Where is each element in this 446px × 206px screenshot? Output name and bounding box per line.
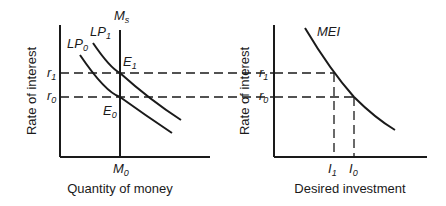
m0-label: M0 — [113, 161, 129, 178]
y-axis-label-left: Rate of interest — [24, 47, 39, 136]
lp1-label: LP1 — [90, 24, 111, 41]
e0-label: E0 — [103, 103, 117, 120]
lp0-label: LP0 — [67, 36, 88, 53]
e1-label: E1 — [123, 54, 137, 71]
economics-diagram: Rate of interest Quantity of money Ms LP… — [0, 0, 446, 206]
r1-label-left: r1 — [47, 65, 56, 82]
i1-label: I1 — [328, 161, 337, 178]
right-panel-investment: Rate of interest Desired investment MEI … — [237, 24, 427, 196]
r0-label-right: r0 — [259, 88, 268, 105]
i0-label: I0 — [349, 161, 358, 178]
mei-label: MEI — [317, 24, 341, 39]
ms-label: Ms — [114, 8, 130, 25]
mei-curve — [305, 28, 395, 130]
x-axis-label-right: Desired investment — [294, 181, 406, 196]
r1-label-right: r1 — [259, 65, 268, 82]
y-axis-label-right: Rate of interest — [237, 47, 252, 136]
r0-label-left: r0 — [47, 88, 56, 105]
x-axis-label-left: Quantity of money — [67, 181, 173, 196]
